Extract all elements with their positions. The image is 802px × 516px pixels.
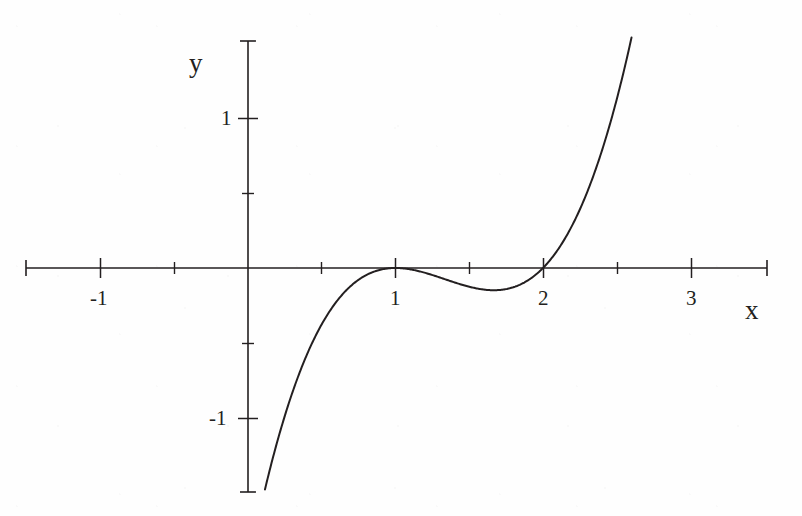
y-tick-label-1: 1 [221, 108, 232, 129]
x-tick-label-3: 3 [686, 288, 697, 309]
y-tick-label-neg1: -1 [209, 408, 227, 429]
x-tick-label-neg1: -1 [90, 288, 108, 309]
x-tick-label-2: 2 [538, 288, 549, 309]
x-axis-label: x [745, 297, 759, 324]
x-tick-label-1: 1 [390, 288, 401, 309]
function-curve [265, 38, 632, 490]
plot-figure: -1 1 2 3 1 -1 y x [0, 0, 802, 516]
plot-canvas [0, 0, 802, 516]
y-axis-label: y [189, 50, 203, 77]
